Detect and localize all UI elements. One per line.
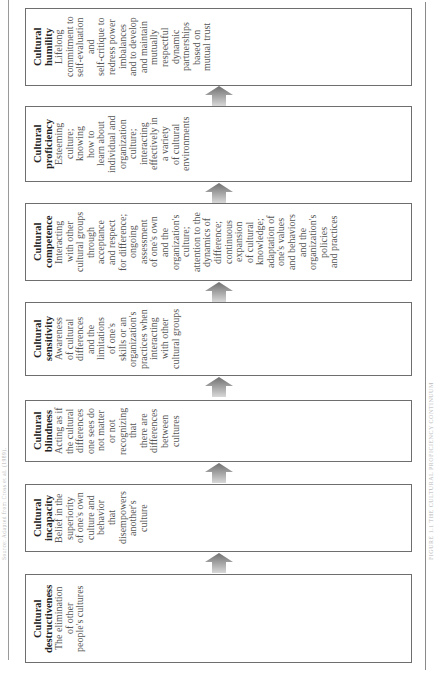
- stage-description-line: cultural groups: [171, 305, 182, 373]
- stage-term-line: Cultural: [32, 11, 43, 83]
- stage-text: CulturalsensitivityAwarenessof culturald…: [32, 305, 181, 373]
- stage-box-competence: CulturalcompetenceInteractingwith otherc…: [25, 203, 412, 281]
- stage-text: CulturalblindnessActing as ifthe cultura…: [32, 403, 181, 459]
- stage-text: CulturaldestructivenessThe eliminationof…: [32, 577, 86, 660]
- stage-description-line: cultures: [171, 403, 182, 459]
- figure-title: FIGURE 1.1 THE CULTURAL PROFICIENCY CONT…: [428, 382, 434, 560]
- right-rule: [425, 2, 426, 670]
- stage-term-line: Cultural: [32, 487, 43, 549]
- stage-text: CulturalproficiencyEsteemingculture;know…: [32, 109, 192, 179]
- stage-term-line: Cultural: [32, 577, 43, 660]
- source-note: Source: Adapted from Cross et al. (1989)…: [1, 448, 7, 560]
- stage-description-line: and respect: [107, 206, 118, 278]
- stage-box-blindness: CulturalblindnessActing as ifthe cultura…: [25, 400, 412, 462]
- stage-description-line: people's cultures: [75, 577, 86, 660]
- up-arrow-icon: [205, 463, 233, 483]
- stage-description-line: culture: [139, 487, 150, 549]
- stage-text: CulturalhumilityLifelongcommitment tosel…: [32, 11, 213, 83]
- up-arrow-icon: [205, 377, 233, 397]
- stage-term-line: Cultural: [32, 403, 43, 459]
- stage-term-line: Cultural: [32, 109, 43, 179]
- up-arrow-icon: [205, 86, 233, 106]
- left-rule: [8, 0, 9, 660]
- stage-term-line: incapacity: [43, 487, 54, 549]
- stage-term-line: Cultural: [32, 305, 43, 373]
- stage-description-line: mutual trust: [202, 11, 213, 83]
- up-arrow-icon: [205, 282, 233, 302]
- stage-description-line: Interacting: [54, 206, 65, 278]
- stage-box-proficiency: CulturalproficiencyEsteemingculture;know…: [25, 106, 412, 182]
- stage-box-sensitivity: CulturalsensitivityAwarenessof culturald…: [25, 302, 412, 376]
- up-arrow-icon: [205, 553, 233, 573]
- stage-box-destructiveness: CulturaldestructivenessThe eliminationof…: [25, 574, 412, 663]
- stage-description-line: and practices: [329, 206, 340, 278]
- stage-box-incapacity: CulturalincapacityBelief in thesuperiori…: [25, 484, 412, 552]
- stage-text: CulturalcompetenceInteractingwith otherc…: [32, 206, 340, 278]
- stage-text: CulturalincapacityBelief in thesuperiori…: [32, 487, 149, 549]
- stage-term-line: Cultural: [32, 206, 43, 278]
- stage-box-humility: CulturalhumilityLifelongcommitment tosel…: [25, 8, 412, 86]
- up-arrow-icon: [205, 183, 233, 203]
- stage-description-line: environments: [181, 109, 192, 179]
